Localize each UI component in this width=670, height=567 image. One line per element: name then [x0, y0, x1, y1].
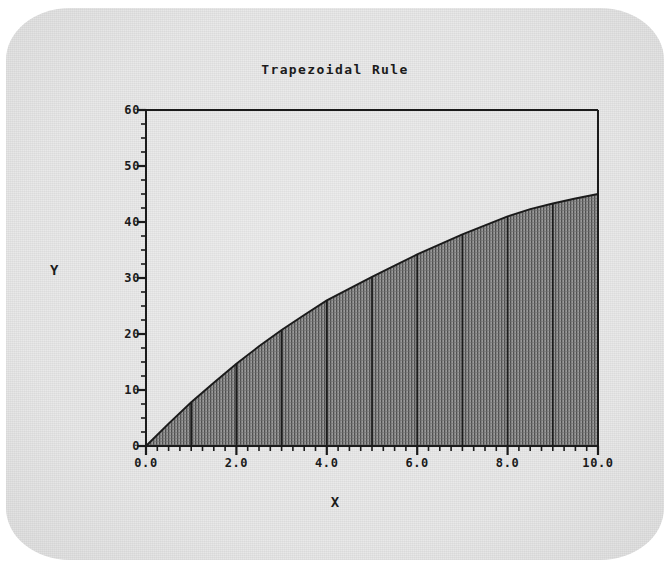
y-tick-label: 50	[100, 159, 140, 173]
y-tick-label: 40	[100, 215, 140, 229]
x-tick-label: 0.0	[111, 456, 181, 470]
y-tick-label: 30	[100, 271, 140, 285]
y-axis-tick-labels: 0102030405060	[96, 0, 140, 567]
crt-monitor-photo: Trapezoidal Rule Y X 0102030405060 0.02.…	[0, 0, 670, 567]
y-axis-label: Y	[50, 262, 58, 278]
y-tick-label: 10	[100, 383, 140, 397]
y-tick-label: 0	[100, 439, 140, 453]
x-axis-tick-group	[146, 446, 598, 455]
y-tick-label: 20	[100, 327, 140, 341]
x-tick-label: 4.0	[292, 456, 362, 470]
x-tick-label: 10.0	[563, 456, 633, 470]
y-tick-label: 60	[100, 103, 140, 117]
x-tick-label: 2.0	[201, 456, 271, 470]
x-tick-label: 8.0	[473, 456, 543, 470]
x-tick-label: 6.0	[382, 456, 452, 470]
